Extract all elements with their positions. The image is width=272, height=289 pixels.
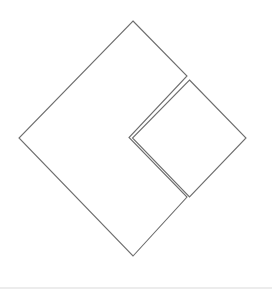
notched-large-square xyxy=(19,21,187,256)
small-square xyxy=(133,80,247,197)
diagram-canvas xyxy=(0,0,272,289)
